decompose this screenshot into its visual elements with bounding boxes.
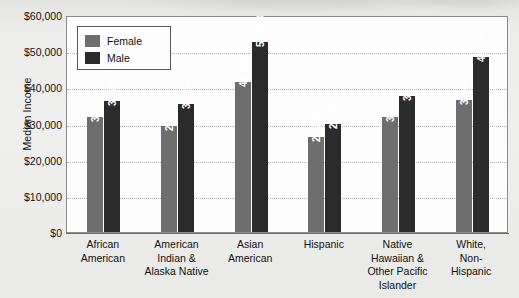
category-label-line: Non- — [434, 252, 508, 266]
bar-value-label: 31,837 — [385, 90, 396, 122]
bar-female: 31,837 — [382, 117, 398, 232]
x-axis-category-label: White,Non-Hispanic — [434, 238, 508, 279]
legend-item-male: Male — [85, 49, 170, 66]
category-label-line: Asian — [213, 238, 287, 252]
y-axis-tick-label: $30,000 — [6, 120, 62, 130]
category-label-line: White, — [434, 238, 508, 252]
bar-male: 29,925 — [325, 124, 341, 232]
category-label-line: Hawaiian & — [361, 252, 435, 266]
bar-male: 37,487 — [399, 96, 415, 232]
category-label-line: Native — [361, 238, 435, 252]
bar-value-label: 31,724 — [90, 90, 101, 122]
bar-value-label: 36,429 — [458, 73, 469, 105]
x-axis-category-label: NativeHawaiian &Other PacificIslander — [361, 238, 435, 292]
category-label-line: American — [66, 252, 140, 266]
bar-male: 48,395 — [473, 57, 489, 232]
gridline — [67, 89, 507, 90]
bar-group: 41,50552,463 — [235, 15, 268, 232]
gridline — [67, 126, 507, 127]
bar-value-label: 48,395 — [475, 30, 486, 62]
median-income-bar-chart: Median Income $60,000$50,000$40,000$30,0… — [0, 0, 519, 298]
y-axis-tick-label: $20,000 — [6, 156, 62, 166]
bar-female: 26,264 — [308, 137, 324, 232]
category-label-line: Other Pacific — [361, 265, 435, 279]
category-label-line: Hispanic — [287, 238, 361, 252]
gridline — [67, 198, 507, 199]
bar-female: 31,724 — [87, 117, 103, 232]
category-label-line: Indian & — [140, 252, 214, 266]
legend-swatch-female — [85, 35, 100, 47]
x-axis-category-label: AsianAmerican — [213, 238, 287, 265]
bar-value-label: 36,290 — [107, 74, 118, 106]
legend-label-male: Male — [107, 52, 130, 64]
bar-male: 36,290 — [104, 101, 120, 232]
x-axis-category-label: Hispanic — [287, 238, 361, 252]
chart-legend: Female Male — [77, 26, 171, 70]
category-label-line: American — [213, 252, 287, 266]
bar-male: 35,267 — [178, 104, 194, 232]
bar-group: 26,26429,925 — [308, 15, 341, 232]
bar-group: 36,42948,395 — [456, 15, 489, 232]
gridline — [67, 162, 507, 163]
category-label-line: Hispanic — [434, 265, 508, 279]
y-axis-tick-label: $40,000 — [6, 83, 62, 93]
category-label-line: American — [140, 238, 214, 252]
bar-female: 36,429 — [456, 100, 472, 232]
bar-value-label: 29,925 — [328, 97, 339, 129]
bar-value-label: 26,264 — [311, 110, 322, 142]
x-axis-category-label: AmericanIndian &Alaska Native — [140, 238, 214, 279]
legend-label-female: Female — [107, 35, 142, 47]
bar-female: 29,443 — [161, 126, 177, 232]
bar-group: 31,83737,487 — [382, 15, 415, 232]
bar-value-label: 41,505 — [237, 55, 248, 87]
legend-swatch-male — [85, 52, 100, 64]
y-axis-tick-label: $0 — [6, 228, 62, 238]
y-axis-tick-label: $60,000 — [6, 11, 62, 21]
category-label-line: African — [66, 238, 140, 252]
bar-male: 52,463 — [252, 42, 268, 232]
bar-value-label: 29,443 — [164, 99, 175, 131]
bar-value-label: 35,267 — [181, 78, 192, 110]
y-axis-tick-label: $50,000 — [6, 47, 62, 57]
bar-female: 41,505 — [235, 82, 251, 232]
y-axis-tick-label: $10,000 — [6, 192, 62, 202]
category-label-line: Alaska Native — [140, 265, 214, 279]
bar-value-label: 37,487 — [402, 70, 413, 102]
x-axis-category-label: AfricanAmerican — [66, 238, 140, 265]
bar-value-label: 52,463 — [254, 15, 265, 47]
y-axis-tick-labels: $60,000$50,000$40,000$30,000$20,000$10,0… — [0, 0, 62, 298]
legend-item-female: Female — [85, 32, 170, 49]
x-axis-line — [66, 233, 509, 234]
category-label-line: Islander — [361, 279, 435, 293]
